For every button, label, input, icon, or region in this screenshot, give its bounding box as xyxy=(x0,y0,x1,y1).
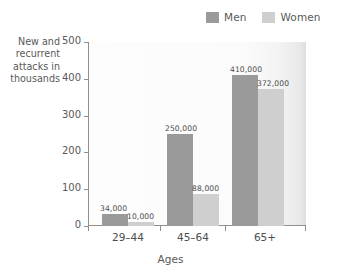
bar-chart: Men Women New and recurrent attacks in t… xyxy=(0,0,341,276)
bars-layer: 34,000 10,000 250,000 88,000 410,000 372… xyxy=(88,42,306,226)
x-tick-end xyxy=(305,226,306,231)
x-category-label-65-plus: 65+ xyxy=(254,231,276,243)
bar-women-29-44[interactable] xyxy=(128,222,154,226)
x-category-label-45-64: 45–64 xyxy=(177,231,209,243)
y-tick-label-400: 400 xyxy=(62,72,81,83)
x-tick-start xyxy=(88,226,89,231)
y-tick-label-300: 300 xyxy=(62,109,81,120)
legend-swatch-women-icon xyxy=(262,12,275,23)
x-tick-1 xyxy=(160,226,161,231)
y-tick-label-100: 100 xyxy=(62,182,81,193)
y-axis-title-line-2: recurrent xyxy=(2,48,60,60)
y-tick-label-200: 200 xyxy=(62,145,81,156)
legend-entry-men: Men xyxy=(206,11,246,23)
y-tick-200: 200 xyxy=(48,152,88,153)
bar-label-men-29-44: 34,000 xyxy=(100,204,127,213)
bar-women-65-plus[interactable] xyxy=(258,89,284,226)
y-axis-title-line-3: attacks in xyxy=(2,61,60,73)
bar-label-men-45-64: 250,000 xyxy=(165,124,197,133)
bar-label-women-65-plus: 372,000 xyxy=(257,79,289,88)
x-axis-title: Ages xyxy=(0,253,341,265)
bar-label-women-29-44: 10,000 xyxy=(127,212,154,221)
plot-area: 500 400 300 200 100 0 34,000 xyxy=(88,42,306,226)
bar-label-men-65-plus: 410,000 xyxy=(230,65,262,74)
legend-entry-women: Women xyxy=(262,11,320,23)
legend-label-men: Men xyxy=(224,11,246,23)
y-tick-0: 0 xyxy=(48,226,88,227)
bar-women-45-64[interactable] xyxy=(193,194,219,226)
y-tick-label-0: 0 xyxy=(75,219,81,230)
y-tick-500: 500 xyxy=(48,42,88,43)
bar-men-45-64[interactable] xyxy=(167,134,193,226)
y-tick-300: 300 xyxy=(48,116,88,117)
bar-label-women-45-64: 88,000 xyxy=(192,184,219,193)
bar-men-65-plus[interactable] xyxy=(232,75,258,226)
chart-legend: Men Women xyxy=(206,11,321,23)
bar-men-29-44[interactable] xyxy=(102,214,128,227)
y-tick-label-500: 500 xyxy=(62,35,81,46)
y-tick-100: 100 xyxy=(48,189,88,190)
legend-swatch-men-icon xyxy=(206,12,219,23)
y-axis-title: New and recurrent attacks in thousands xyxy=(2,36,60,85)
y-tick-400: 400 xyxy=(48,79,88,80)
legend-label-women: Women xyxy=(280,11,320,23)
x-category-label-29-44: 29–44 xyxy=(112,231,144,243)
x-tick-2 xyxy=(225,226,226,231)
